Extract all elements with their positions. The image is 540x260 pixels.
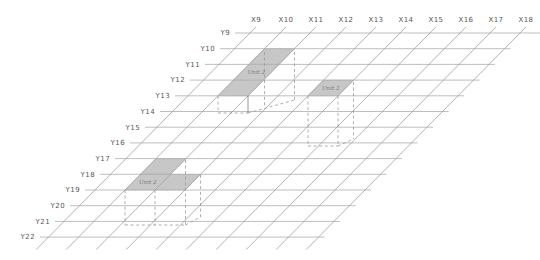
region-3-label: Unit 2: [139, 179, 157, 185]
x-axis-label-X14: X14: [399, 16, 414, 24]
y-axis-label-Y11: Y11: [185, 61, 200, 69]
y-axis-label-Y15: Y15: [125, 124, 140, 132]
diagram-canvas: Y9Y10Y11Y12Y13Y14Y15Y16Y17Y18Y19Y20Y21Y2…: [0, 0, 540, 260]
grid-column-line-X14: [186, 27, 406, 250]
y-axis-label-Y17: Y17: [95, 155, 110, 163]
sheared-grid-diagram: Y9Y10Y11Y12Y13Y14Y15Y16Y17Y18Y19Y20Y21Y2…: [0, 0, 540, 260]
y-axis-label-Y19: Y19: [65, 186, 80, 194]
y-axis-label-Y13: Y13: [155, 92, 170, 100]
y-axis-label-Y16: Y16: [110, 139, 126, 147]
y-axis-label-Y20: Y20: [50, 202, 65, 210]
x-axis-label-X12: X12: [339, 16, 354, 24]
x-axis-label-X13: X13: [369, 16, 384, 24]
y-axis-label-Y12: Y12: [170, 76, 185, 84]
x-axis-label-X17: X17: [489, 16, 504, 24]
region-1-projection-dashed-line-5: [248, 100, 295, 113]
grid-column-line-X11: [96, 27, 316, 250]
y-axis-label-Y22: Y22: [20, 233, 35, 241]
y-axis-label-Y14: Y14: [140, 108, 156, 116]
grid-column-line-X17: [276, 27, 496, 250]
y-axis-label-Y18: Y18: [80, 171, 95, 179]
x-axis-label-X11: X11: [309, 16, 324, 24]
region-2-label: Unit 2: [322, 85, 340, 91]
x-axis-label-X10: X10: [279, 16, 294, 24]
region-1-label: Unit 2: [247, 69, 265, 75]
y-axis-label-Y10: Y10: [200, 45, 215, 53]
grid-column-line-X15: [216, 27, 436, 250]
grid-column-line-X10: [66, 27, 286, 250]
y-axis-label-Y9: Y9: [219, 29, 230, 37]
y-axis-label-Y21: Y21: [35, 218, 50, 226]
x-axis-label-X9: X9: [251, 16, 261, 24]
x-axis-label-X18: X18: [519, 16, 534, 24]
x-axis-label-X15: X15: [429, 16, 444, 24]
grid-column-line-X9: [36, 27, 256, 250]
grid-column-line-X12: [126, 27, 346, 250]
region-3-cell: [141, 159, 187, 175]
grid-column-line-X18: [306, 27, 526, 250]
x-axis-label-X16: X16: [459, 16, 474, 24]
